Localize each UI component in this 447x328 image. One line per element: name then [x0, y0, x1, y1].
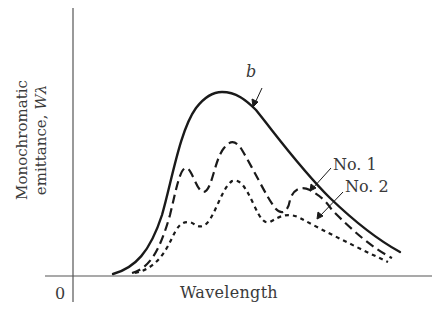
curve-no2-label: No. 2 [345, 177, 389, 196]
y-axis-label: Monochromatic emittance, Wλ [2, 60, 62, 220]
y-axis-label-line2: emittance, Wλ [32, 80, 51, 200]
emittance-chart [0, 0, 447, 328]
y-axis-label-line1: Monochromatic [13, 80, 32, 200]
curve-b-label: b [246, 62, 256, 81]
x-axis-label: Wavelength [180, 283, 278, 302]
arrow-b [252, 88, 262, 107]
y-axis-label-prefix: emittance, [32, 115, 50, 196]
y-axis-label-symbol: Wλ [32, 85, 50, 110]
origin-label: 0 [55, 284, 65, 303]
curve-no1-label: No. 1 [333, 155, 377, 174]
